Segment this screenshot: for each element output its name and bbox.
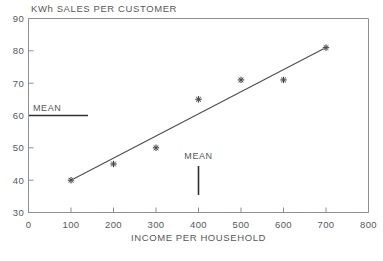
- mean-vertical-label: MEAN: [184, 151, 212, 161]
- y-tick-label-30: 30: [13, 207, 24, 218]
- data-point-marker: [110, 161, 116, 167]
- x-tick-label-100: 100: [63, 219, 80, 230]
- y-tick-label-40: 40: [13, 175, 24, 186]
- y-tick-label-90: 90: [13, 13, 24, 24]
- y-tick-label-80: 80: [13, 45, 24, 56]
- scatter-plot: KWh SALES PER CUSTOMER 90 80 70 60 50 40…: [0, 0, 383, 261]
- data-point-marker: [238, 77, 244, 83]
- x-tick-label-800: 800: [360, 219, 377, 230]
- x-axis-title: INCOME PER HOUSEHOLD: [131, 232, 266, 243]
- x-tick-label-600: 600: [275, 219, 292, 230]
- data-point-marker: [323, 44, 329, 50]
- y-tick-label-60: 60: [13, 110, 24, 121]
- data-point-marker: [195, 96, 201, 102]
- y-tick-label-50: 50: [13, 142, 24, 153]
- x-axis-tick-labels: 0 100 200 300 400 500 600 700 800: [26, 219, 377, 230]
- x-tick-label-500: 500: [233, 219, 250, 230]
- chart-title: KWh SALES PER CUSTOMER: [31, 3, 177, 14]
- mean-horizontal-label: MEAN: [33, 103, 61, 113]
- x-tick-label-300: 300: [148, 219, 165, 230]
- y-axis-tick-labels: 90 80 70 60 50 40 30: [13, 13, 24, 218]
- x-tick-label-700: 700: [318, 219, 335, 230]
- data-point-marker: [153, 145, 159, 151]
- chart-screenshot: KWh SALES PER CUSTOMER 90 80 70 60 50 40…: [0, 0, 383, 261]
- x-tick-label-400: 400: [190, 219, 207, 230]
- mean-vertical-annotation: MEAN: [184, 151, 212, 195]
- x-tick-label-0: 0: [26, 219, 32, 230]
- mean-horizontal-annotation: MEAN: [29, 103, 88, 116]
- y-tick-label-70: 70: [13, 78, 24, 89]
- data-point-marker: [280, 77, 286, 83]
- x-axis-ticks: [29, 208, 369, 213]
- x-tick-label-200: 200: [105, 219, 122, 230]
- data-point-marker: [68, 177, 74, 183]
